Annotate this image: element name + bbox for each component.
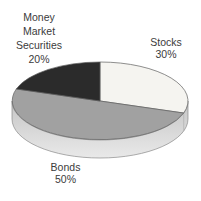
pie-chart-figure: Money Market Securities 20% Stocks 30% B… [0,0,201,201]
label-percent: 50% [31,173,100,185]
label-line: Money [1,10,77,24]
label-percent: 30% [132,48,200,60]
label-percent: 20% [1,52,77,66]
label-stocks: Stocks 30% [132,36,200,60]
label-line: Market [1,24,77,38]
label-line: Stocks [132,36,200,48]
label-line: Securities [1,38,77,52]
label-line: Bonds [31,161,100,173]
label-bonds: Bonds 50% [31,161,100,185]
label-money-market-securities: Money Market Securities 20% [1,10,77,66]
